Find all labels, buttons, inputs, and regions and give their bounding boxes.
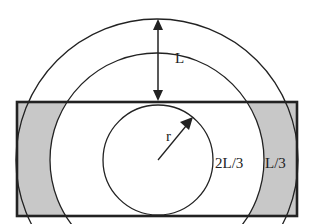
diagram: L r 2L/3 L/3 [0, 0, 312, 224]
length-arrow [153, 19, 163, 101]
label-inner-band: 2L/3 [215, 155, 243, 171]
label-radius: r [166, 128, 171, 144]
label-outer-band: L/3 [265, 155, 286, 171]
label-length: L [175, 50, 184, 66]
